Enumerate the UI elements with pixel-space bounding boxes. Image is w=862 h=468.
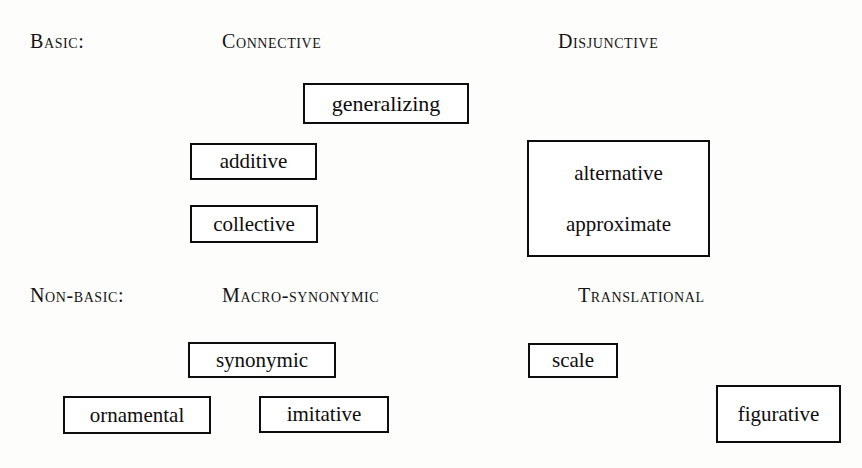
column-heading-macro-synonymic: Macro-synonymic — [222, 285, 379, 305]
box-ornamental: ornamental — [63, 396, 211, 434]
term-label: alternative — [574, 162, 663, 184]
box-additive: additive — [190, 143, 317, 180]
column-heading-connective: Connective — [222, 31, 321, 51]
column-heading-disjunctive: Disjunctive — [558, 31, 658, 51]
box-figurative: figurative — [716, 385, 841, 443]
row-label-non-basic: Non-basic: — [30, 285, 124, 305]
term-label: scale — [552, 349, 594, 371]
box-generalizing: generalizing — [303, 83, 469, 124]
box-imitative: imitative — [259, 396, 389, 433]
box-scale: scale — [528, 343, 618, 378]
term-label: additive — [220, 150, 288, 172]
box-alternative-approximate: alternativeapproximate — [527, 140, 710, 257]
term-label: ornamental — [90, 404, 184, 426]
box-synonymic: synonymic — [188, 342, 336, 378]
term-label: approximate — [566, 213, 671, 235]
row-label-basic: Basic: — [30, 31, 84, 51]
term-label: imitative — [287, 403, 362, 425]
term-label: collective — [213, 213, 295, 235]
diagram-canvas: Basic:ConnectiveDisjunctiveNon-basic:Mac… — [0, 0, 862, 468]
term-label: synonymic — [216, 349, 308, 371]
term-label: figurative — [738, 403, 820, 425]
column-heading-translational: Translational — [578, 285, 705, 305]
term-label: generalizing — [332, 92, 441, 115]
box-collective: collective — [190, 205, 318, 243]
